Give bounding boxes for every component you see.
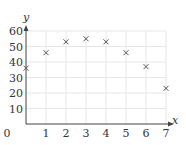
x-tick-label: 6	[143, 127, 150, 140]
x-tick-label: 1	[43, 127, 50, 140]
y-axis-label: y	[22, 11, 30, 24]
y-tick-label: 10	[9, 103, 23, 116]
y-tick-label: 40	[9, 56, 23, 69]
x-tick-label: 2	[63, 127, 70, 140]
y-tick-label: 50	[9, 41, 23, 54]
x-axis-label: x	[172, 114, 179, 127]
x-tick-label: 3	[83, 127, 90, 140]
grid-lines	[26, 31, 166, 124]
x-tick-label: 4	[103, 127, 110, 140]
y-tick-label: 20	[9, 87, 23, 100]
y-tick-label: 60	[9, 25, 23, 38]
x-tick-label: 7	[163, 127, 170, 140]
y-axis-arrow-icon	[24, 25, 29, 31]
scatter-chart: 01234567102030405060 x y	[0, 0, 186, 145]
x-tick-label: 0	[4, 127, 11, 140]
data-points	[24, 36, 169, 91]
x-tick-label: 5	[123, 127, 130, 140]
y-tick-label: 30	[9, 72, 23, 85]
